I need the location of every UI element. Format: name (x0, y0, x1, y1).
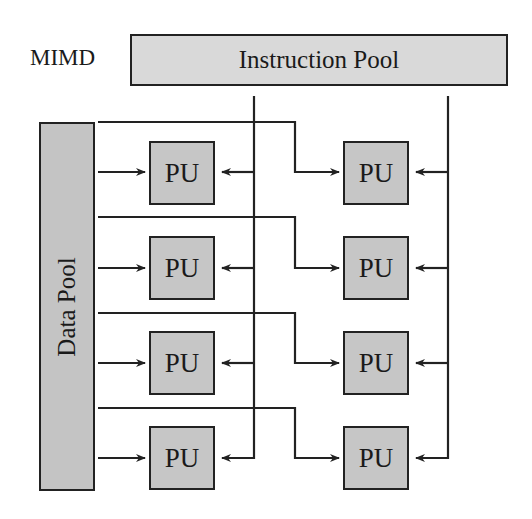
data-pool: Data Pool (39, 122, 95, 491)
processing-unit: PU (149, 236, 215, 300)
instruction-pool-label: Instruction Pool (239, 46, 399, 74)
pu-label: PU (359, 348, 394, 379)
instruction-pool: Instruction Pool (130, 34, 508, 86)
pu-label: PU (165, 253, 200, 284)
pu-label: PU (165, 158, 200, 189)
instruction-bus-right (416, 96, 448, 458)
processing-unit: PU (149, 331, 215, 395)
diagram-title: MIMD (30, 44, 95, 72)
instruction-bus-left (222, 96, 254, 458)
pu-label: PU (359, 253, 394, 284)
pu-label: PU (359, 158, 394, 189)
processing-unit: PU (343, 141, 409, 205)
data-pool-label: Data Pool (53, 257, 81, 356)
pu-label: PU (359, 443, 394, 474)
processing-unit: PU (149, 141, 215, 205)
processing-unit: PU (149, 426, 215, 490)
processing-unit: PU (343, 331, 409, 395)
pu-label: PU (165, 348, 200, 379)
processing-unit: PU (343, 236, 409, 300)
pu-label: PU (165, 443, 200, 474)
processing-unit: PU (343, 426, 409, 490)
